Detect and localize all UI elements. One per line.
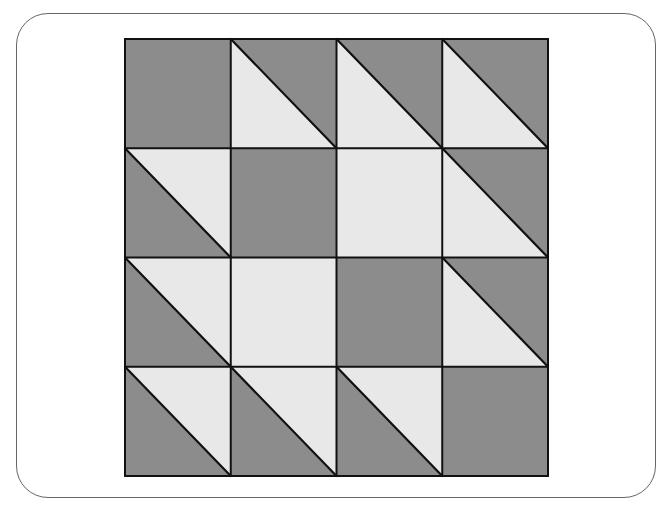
cell-light-square — [337, 148, 443, 257]
cell-dark-square — [125, 39, 231, 148]
quilt-grid — [0, 0, 666, 511]
cell-dark-square — [442, 367, 548, 476]
cell-light-square — [231, 258, 337, 367]
cell-dark-square — [231, 148, 337, 257]
cell-dark-square — [337, 258, 443, 367]
